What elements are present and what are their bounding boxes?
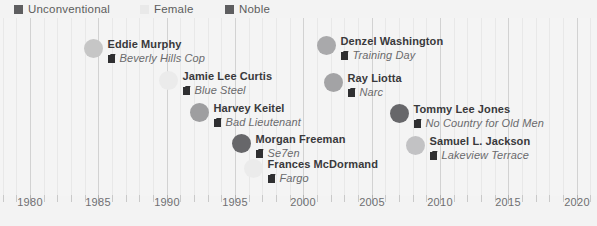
scatter-chart: UnconventionalFemaleNoble Eddie MurphyBe… <box>0 0 597 226</box>
film-clapper-icon <box>183 86 191 95</box>
data-point[interactable]: Frances McDormandFargo <box>244 159 379 185</box>
film-line: No Country for Old Men <box>414 117 544 130</box>
film-clapper-icon <box>108 54 116 63</box>
data-point-label-group: Frances McDormandFargo <box>268 158 379 185</box>
data-point[interactable]: Eddie MurphyBeverly Hills Cop <box>84 39 205 65</box>
data-point-label-group: Jamie Lee CurtisBlue Steel <box>183 70 273 97</box>
actor-name: Morgan Freeman <box>256 133 346 146</box>
film-clapper-icon <box>268 174 276 183</box>
x-axis-labels: 198019851990199520002005201020152020 <box>0 196 597 226</box>
actor-name: Denzel Washington <box>341 35 444 48</box>
data-point-label-group: Samuel L. JacksonLakeview Terrace <box>430 135 531 162</box>
data-point[interactable]: Tommy Lee JonesNo Country for Old Men <box>390 104 544 130</box>
data-point-marker <box>244 159 263 178</box>
film-title: Lakeview Terrace <box>442 149 529 162</box>
actor-name: Tommy Lee Jones <box>414 103 544 116</box>
gridline-minor <box>3 18 4 196</box>
data-point-marker <box>324 73 343 92</box>
legend-swatch-icon <box>225 5 234 14</box>
actor-name: Frances McDormand <box>268 158 379 171</box>
x-axis-tick-label: 2020 <box>564 196 590 208</box>
data-point-label-group: Morgan FreemanSe7en <box>256 133 346 160</box>
data-point-label-group: Denzel WashingtonTraining Day <box>341 35 444 62</box>
film-title: Bad Lieutenant <box>226 116 301 129</box>
actor-name: Jamie Lee Curtis <box>183 70 273 83</box>
data-point-label-group: Tommy Lee JonesNo Country for Old Men <box>414 103 544 130</box>
data-point-marker <box>84 39 103 58</box>
film-line: Lakeview Terrace <box>430 149 531 162</box>
data-point[interactable]: Samuel L. JacksonLakeview Terrace <box>406 136 531 162</box>
data-point-label-group: Harvey KeitelBad Lieutenant <box>214 102 301 129</box>
gridline-minor <box>57 18 58 196</box>
film-line: Fargo <box>268 172 379 185</box>
x-axis-tick-label: 2010 <box>427 196 453 208</box>
film-clapper-icon <box>414 119 422 128</box>
film-line: Beverly Hills Cop <box>108 52 205 65</box>
x-axis-tick-label: 2000 <box>290 196 316 208</box>
data-point-label-group: Ray LiottaNarc <box>348 72 402 99</box>
legend-item-female[interactable]: Female <box>140 3 194 15</box>
legend-item-noble[interactable]: Noble <box>225 3 270 15</box>
legend-label: Noble <box>239 3 270 15</box>
film-title: Narc <box>360 86 384 99</box>
film-title: Beverly Hills Cop <box>120 52 205 65</box>
gridline-major <box>30 18 31 196</box>
gridline-minor <box>549 18 550 196</box>
x-axis-tick-label: 1980 <box>17 196 43 208</box>
gridline-minor <box>71 18 72 196</box>
x-axis-tick-label: 2015 <box>495 196 521 208</box>
actor-name: Samuel L. Jackson <box>430 135 531 148</box>
x-axis-tick-label: 1985 <box>85 196 111 208</box>
legend-label: Female <box>154 3 194 15</box>
legend-item-unconventional[interactable]: Unconventional <box>14 3 110 15</box>
legend-swatch-icon <box>140 5 149 14</box>
gridline-major <box>577 18 578 196</box>
data-point[interactable]: Harvey KeitelBad Lieutenant <box>190 103 301 129</box>
gridline-minor <box>16 18 17 196</box>
film-line: Training Day <box>341 49 444 62</box>
x-axis-tick-label: 2005 <box>359 196 385 208</box>
data-point[interactable]: Ray LiottaNarc <box>324 73 402 99</box>
film-clapper-icon <box>430 151 438 160</box>
gridline-minor <box>563 18 564 196</box>
film-line: Bad Lieutenant <box>214 116 301 129</box>
legend-swatch-icon <box>14 5 23 14</box>
film-title: No Country for Old Men <box>426 117 544 130</box>
actor-name: Eddie Murphy <box>108 38 205 51</box>
film-title: Training Day <box>353 49 416 62</box>
gridline-minor <box>590 18 591 196</box>
actor-name: Ray Liotta <box>348 72 402 85</box>
data-point[interactable]: Morgan FreemanSe7en <box>232 134 346 160</box>
x-axis-tick-label: 1995 <box>222 196 248 208</box>
film-clapper-icon <box>341 51 349 60</box>
data-point-marker <box>232 134 251 153</box>
x-axis-tick-label: 1990 <box>154 196 180 208</box>
legend-label: Unconventional <box>28 3 110 15</box>
film-line: Blue Steel <box>183 84 273 97</box>
data-point-marker <box>190 103 209 122</box>
data-point[interactable]: Denzel WashingtonTraining Day <box>317 36 444 62</box>
film-title: Blue Steel <box>195 84 246 97</box>
data-point[interactable]: Jamie Lee CurtisBlue Steel <box>159 71 273 97</box>
data-point-marker <box>317 36 336 55</box>
data-point-marker <box>406 136 425 155</box>
film-clapper-icon <box>348 88 356 97</box>
data-point-label-group: Eddie MurphyBeverly Hills Cop <box>108 38 205 65</box>
gridline-minor <box>44 18 45 196</box>
data-point-marker <box>390 104 409 123</box>
film-title: Fargo <box>280 172 309 185</box>
actor-name: Harvey Keitel <box>214 102 301 115</box>
film-clapper-icon <box>256 149 264 158</box>
data-point-marker <box>159 71 178 90</box>
film-clapper-icon <box>214 118 222 127</box>
film-line: Narc <box>348 86 402 99</box>
